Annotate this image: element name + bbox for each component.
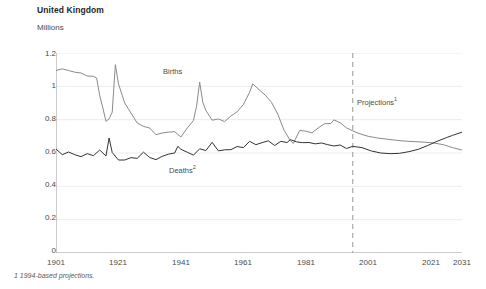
chart-page: United Kingdom Millions 1.2 1 0.8 0.6 0.… xyxy=(0,0,486,289)
y-tick-0_4: 0.4 xyxy=(30,180,56,189)
y-tick-0_8: 0.8 xyxy=(30,114,56,123)
x-tick-1981: 1981 xyxy=(286,258,326,267)
x-tick-1961: 1961 xyxy=(223,258,263,267)
series-line-births xyxy=(56,65,462,150)
y-tick-0_2: 0.2 xyxy=(30,213,56,222)
y-tick-1_0: 1 xyxy=(30,81,56,90)
series-line-deaths xyxy=(56,132,462,160)
x-tick-1921: 1921 xyxy=(98,258,138,267)
chart-footnote: 1 1994-based projections. xyxy=(14,272,95,279)
x-tick-2001: 2001 xyxy=(348,258,388,267)
x-tick-1901: 1901 xyxy=(36,258,76,267)
x-tick-1941: 1941 xyxy=(161,258,201,267)
y-tick-0_6: 0.6 xyxy=(30,147,56,156)
y-tick-1_2: 1.2 xyxy=(30,49,56,58)
x-tick-2031: 2031 xyxy=(442,258,482,267)
y-tick-0_0: 0 xyxy=(30,246,56,255)
page-title: United Kingdom xyxy=(37,5,104,15)
y-axis-units-label: Millions xyxy=(37,23,64,32)
chart-plot-area xyxy=(56,53,462,253)
